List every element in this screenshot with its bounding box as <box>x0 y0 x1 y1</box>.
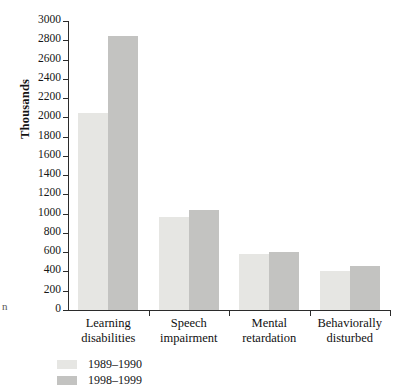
legend-swatch <box>57 376 77 385</box>
category-label-line: Speech <box>149 316 230 331</box>
y-tick-mark <box>63 310 68 311</box>
y-tick-label: 2600 <box>38 52 61 64</box>
y-tick-label: 2000 <box>38 109 61 121</box>
y-tick-label: 800 <box>44 225 61 237</box>
y-tick-mark <box>63 214 68 215</box>
category-label-line: disturbed <box>310 331 391 346</box>
x-axis-category-label: Mentalretardation <box>229 316 310 346</box>
bar <box>269 252 299 310</box>
plot-area: 3000280026002400220020001800160014001200… <box>68 21 390 310</box>
bar <box>108 36 138 310</box>
y-tick-label: 200 <box>44 283 61 295</box>
bar <box>159 217 189 310</box>
y-tick-mark <box>63 233 68 234</box>
y-tick-mark <box>63 156 68 157</box>
bar <box>320 271 350 310</box>
y-tick-mark <box>63 175 68 176</box>
y-tick-label: 1000 <box>38 206 61 218</box>
x-axis-category-label: Behaviorallydisturbed <box>310 316 391 346</box>
y-tick-mark <box>63 252 68 253</box>
bar <box>189 210 219 310</box>
y-tick-mark <box>63 137 68 138</box>
bar <box>78 113 108 310</box>
y-tick-mark <box>63 117 68 118</box>
legend-item: 1998–1999 <box>57 373 142 387</box>
bar <box>350 266 380 310</box>
y-tick-mark <box>63 271 68 272</box>
y-tick-label: 3000 <box>38 13 61 25</box>
category-label-line: Behaviorally <box>310 316 391 331</box>
y-tick-mark <box>63 60 68 61</box>
category-label-line: Learning <box>68 316 149 331</box>
y-tick-mark <box>63 40 68 41</box>
y-axis-title: Thousands <box>18 39 33 139</box>
category-label-line: Mental <box>229 316 310 331</box>
y-tick-mark <box>63 291 68 292</box>
y-tick-mark <box>63 194 68 195</box>
legend-label: 1998–1999 <box>88 373 142 388</box>
category-label-line: retardation <box>229 331 310 346</box>
x-axis-separator <box>390 310 391 316</box>
legend-item: 1989–1990 <box>57 357 142 371</box>
y-tick-label: 1800 <box>38 129 61 141</box>
y-tick-mark <box>63 98 68 99</box>
y-tick-label: 1400 <box>38 167 61 179</box>
page-bleed-fragment: n <box>2 300 8 312</box>
chart-legend: 1989–19901998–1999 <box>57 357 142 389</box>
category-label-line: impairment <box>149 331 230 346</box>
y-tick-label: 2800 <box>38 32 61 44</box>
legend-swatch <box>57 360 77 369</box>
y-tick-mark <box>63 21 68 22</box>
y-tick-label: 2200 <box>38 90 61 102</box>
y-tick-label: 2400 <box>38 71 61 83</box>
y-tick-label: 1600 <box>38 148 61 160</box>
legend-label: 1989–1990 <box>88 357 142 372</box>
category-label-line: disabilities <box>68 331 149 346</box>
y-tick-label: 400 <box>44 263 61 275</box>
x-axis-category-label: Speechimpairment <box>149 316 230 346</box>
bar-chart: n Thousands 3000280026002400220020001800… <box>0 0 407 390</box>
y-tick-mark <box>63 79 68 80</box>
y-tick-label: 0 <box>55 302 61 314</box>
x-axis-category-label: Learningdisabilities <box>68 316 149 346</box>
y-tick-label: 600 <box>44 244 61 256</box>
bar <box>239 254 269 310</box>
y-tick-label: 1200 <box>38 186 61 198</box>
